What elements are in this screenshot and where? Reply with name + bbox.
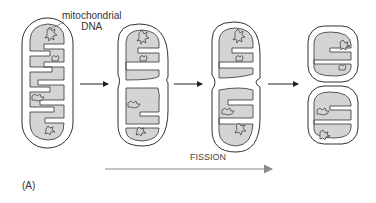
mitochondrial-fission-diagram — [0, 0, 376, 203]
panel-label: (A) — [22, 180, 35, 191]
fission-label: FISSION — [190, 152, 226, 163]
mitochondrion-stage-3 — [212, 22, 260, 152]
mitochondrion-stage-2 — [118, 24, 168, 146]
mitochondrion-stage-4 — [308, 26, 358, 144]
dna-label: mitochondrial DNA — [62, 10, 121, 32]
dna-label-line1: mitochondrial — [62, 10, 121, 21]
dna-label-line2: DNA — [62, 21, 121, 32]
mitochondrion-stage-1 — [22, 18, 73, 148]
